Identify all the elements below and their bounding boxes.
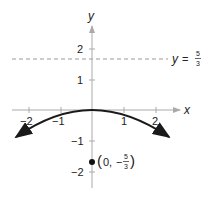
x-tick-label: −2 (20, 115, 33, 127)
x-axis-label: x (183, 103, 191, 117)
focus-label-minus: − (116, 156, 122, 168)
x-tick-label: 1 (121, 115, 127, 127)
y-tick-label: −1 (71, 135, 84, 147)
parabola-diagram: y x −2 −1 1 2 2 1 −1 −2 y = 5 3 ( 0, − 5… (0, 0, 214, 200)
x-tick-label: 2 (152, 115, 158, 127)
focus-label-num: 5 (124, 153, 128, 160)
directrix-label-den: 3 (196, 60, 200, 67)
focus-label-den: 3 (124, 163, 128, 170)
y-axis-label: y (87, 9, 95, 23)
directrix-label-y: y (171, 52, 179, 66)
y-tick-label: 2 (77, 43, 83, 55)
focus-label-zero: 0, (103, 156, 112, 168)
directrix-label-eq: = (182, 53, 188, 65)
y-tick-label: 1 (77, 74, 83, 86)
focus-label-paren-close: ) (130, 152, 135, 169)
focus-point (89, 159, 95, 165)
focus-label-paren-open: ( (97, 152, 102, 169)
y-tick-label: −2 (71, 166, 84, 178)
directrix-label-num: 5 (196, 50, 200, 57)
x-tick-label: −1 (52, 115, 65, 127)
